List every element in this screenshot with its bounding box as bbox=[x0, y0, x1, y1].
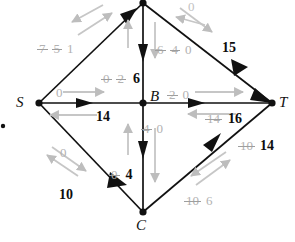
edge-label-b-c-current: 0 4 bbox=[110, 166, 133, 182]
edge-label-b-t-gray: 2 0 bbox=[168, 86, 189, 102]
node-dot-c bbox=[139, 208, 146, 215]
edge-label-b-t-g0: 2 bbox=[168, 88, 177, 101]
edge-label-a-b-v1: 4 bbox=[171, 43, 180, 56]
edge-label-a-b-old1: 2 bbox=[117, 72, 126, 85]
node-label-c: C bbox=[136, 218, 146, 233]
edge-label-s-c-bold: 10 bbox=[59, 188, 73, 202]
node-label-b: B bbox=[150, 89, 159, 104]
node-dot-t bbox=[268, 99, 275, 106]
edge-label-c-t-h0: 10 bbox=[185, 194, 200, 207]
edge-s-b bbox=[39, 98, 143, 108]
edge-label-s-b-gray: 0 bbox=[56, 86, 63, 99]
edge-label-a-t-gray: 0 bbox=[188, 0, 195, 13]
edge-label-a-b-v2: 0 bbox=[185, 42, 192, 57]
stray-mark-left bbox=[1, 124, 5, 128]
edge-label-c-t-h1: 6 bbox=[206, 193, 213, 208]
edge-label-a-b-current: 0 2 6 bbox=[102, 70, 140, 86]
edge-label-b-c-old: 0 bbox=[110, 168, 119, 181]
edge-label-s-a: 7 5 1 bbox=[38, 40, 74, 56]
edge-label-c-t-current: 10 14 bbox=[239, 137, 274, 153]
edge-label-a-b-old0: 0 bbox=[102, 72, 111, 85]
edge-label-b-t-current: 14 16 bbox=[206, 110, 242, 126]
edge-label-b-c-gray: 4 0 bbox=[142, 120, 163, 136]
edge-label-a-b-v0: 6 bbox=[156, 43, 165, 56]
edge-a-b bbox=[138, 3, 148, 103]
edge-label-b-t-bold: 16 bbox=[228, 111, 242, 126]
edge-label-s-a-v2: 1 bbox=[67, 41, 74, 56]
edge-label-a-b-history: 6 4 0 bbox=[156, 41, 192, 57]
edge-s-c bbox=[39, 103, 143, 212]
residual-arrows bbox=[47, 5, 243, 185]
flow-network-diagram: S B C T 7 5 1 0 15 6 4 0 0 2 6 0 14 2 0 … bbox=[0, 0, 295, 242]
edge-label-b-c-g1: 0 bbox=[157, 121, 164, 136]
edge-label-s-c-gray: 0 bbox=[60, 146, 67, 159]
edge-label-s-a-v0: 7 bbox=[38, 42, 47, 55]
edge-label-b-t-old: 14 bbox=[206, 112, 221, 125]
node-dots bbox=[1, 0, 276, 216]
node-label-s: S bbox=[16, 95, 24, 110]
edge-label-a-b-bold: 6 bbox=[133, 71, 140, 86]
edge-label-s-a-v1: 5 bbox=[53, 42, 62, 55]
edge-label-a-t-bold: 15 bbox=[222, 41, 236, 55]
edge-label-s-b-bold: 14 bbox=[96, 110, 110, 124]
edge-label-c-t-history: 10 6 bbox=[185, 192, 213, 208]
edge-label-c-t-old: 10 bbox=[239, 139, 254, 152]
node-dot-b bbox=[139, 99, 146, 106]
node-dot-s bbox=[35, 99, 42, 106]
node-label-t: T bbox=[279, 95, 287, 110]
edge-label-b-c-bold: 4 bbox=[126, 167, 133, 182]
edge-label-c-t-bold: 14 bbox=[260, 138, 274, 153]
edge-label-b-t-g1: 0 bbox=[183, 87, 190, 102]
edge-label-b-c-g0: 4 bbox=[142, 122, 151, 135]
